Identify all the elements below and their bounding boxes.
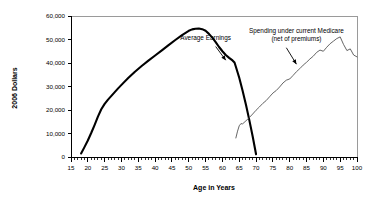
y-tick-label: 50,000: [46, 36, 65, 43]
y-axis-title: 2006 Dollars: [11, 67, 18, 108]
x-tick-label: 80: [286, 164, 293, 171]
chart-figure: 010,00020,00030,00040,00050,00060,000 15…: [0, 0, 376, 208]
x-tick-label: 30: [118, 164, 125, 171]
x-tick-label: 20: [84, 164, 91, 171]
y-tick-label: 30,000: [46, 83, 65, 90]
x-tick-label: 95: [337, 164, 344, 171]
annotation-arrowhead-average-earnings: [221, 55, 225, 60]
x-tick-label: 55: [202, 164, 209, 171]
y-tick-label: 40,000: [46, 59, 65, 66]
x-tick-label: 65: [236, 164, 243, 171]
x-tick-label: 70: [253, 164, 260, 171]
y-tick-label: 0: [62, 153, 66, 160]
y-tick-label: 10,000: [46, 130, 65, 137]
series-line-medicare-spending: [236, 37, 357, 138]
chart-container: 010,00020,00030,00040,00050,00060,000 15…: [0, 0, 376, 208]
data-series-group: [81, 28, 357, 154]
x-tick-label: 40: [152, 164, 159, 171]
x-axis-tick-labels: 1520253035404550556065707580859095100: [68, 164, 363, 171]
x-tick-label: 25: [101, 164, 108, 171]
x-axis-title: Age in Years: [193, 184, 235, 192]
y-tick-label: 60,000: [46, 12, 65, 19]
x-tick-label: 85: [303, 164, 310, 171]
x-tick-label: 45: [168, 164, 175, 171]
x-tick-label: 60: [219, 164, 226, 171]
series-line-average-earnings: [81, 28, 256, 154]
x-tick-label: 90: [320, 164, 327, 171]
annotation-label-medicare-spending: Spending under current Medicare: [249, 27, 344, 35]
annotation-label-medicare-spending: (net of premiums): [271, 35, 321, 43]
y-axis-tick-labels: 010,00020,00030,00040,00050,00060,000: [46, 12, 65, 160]
x-tick-label: 100: [352, 164, 363, 171]
annotations-group: Average EarningsSpending under current M…: [180, 27, 344, 64]
x-tick-label: 35: [135, 164, 142, 171]
y-tick-label: 20,000: [46, 106, 65, 113]
x-axis-ticks: [71, 157, 357, 162]
x-tick-label: 75: [269, 164, 276, 171]
x-tick-label: 50: [185, 164, 192, 171]
x-tick-label: 15: [68, 164, 75, 171]
annotation-label-average-earnings: Average Earnings: [180, 34, 231, 42]
